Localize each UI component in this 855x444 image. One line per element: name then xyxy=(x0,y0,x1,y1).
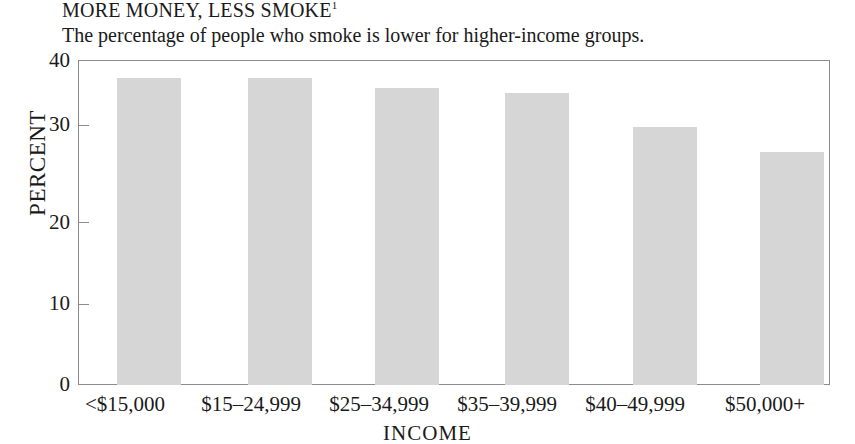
bar-4 xyxy=(633,127,697,385)
x-tick-label-4: $40–49,999 xyxy=(574,392,696,417)
bar-1 xyxy=(248,78,312,385)
bar-3 xyxy=(505,93,569,385)
x-tick-label-1: $15–24,999 xyxy=(190,392,312,417)
bar-2 xyxy=(375,88,439,385)
y-tick-label-30: 30 xyxy=(22,114,70,135)
y-tick-label-0: 0 xyxy=(22,374,70,395)
chart-title-footnote-marker: 1 xyxy=(332,0,338,11)
chart-subtitle: The percentage of people who smoke is lo… xyxy=(62,24,644,47)
bars-layer xyxy=(78,60,830,385)
y-tick-label-20: 20 xyxy=(22,212,70,233)
bar-0 xyxy=(117,78,181,385)
x-tick-label-0: <$15,000 xyxy=(70,392,180,417)
x-tick-label-3: $35–39,999 xyxy=(446,392,568,417)
x-axis-title: INCOME xyxy=(0,421,855,444)
x-tick-label-2: $25–34,999 xyxy=(318,392,440,417)
y-tick-label-10: 10 xyxy=(22,293,70,314)
bar-5 xyxy=(760,152,824,385)
x-tick-label-5: $50,000+ xyxy=(704,392,826,417)
y-axis-title: PERCENT xyxy=(25,63,51,263)
y-axis: PERCENT 40 30 20 10 0 xyxy=(10,0,70,439)
chart-title-text: MORE MONEY, LESS SMOKE xyxy=(62,0,332,21)
chart-title: MORE MONEY, LESS SMOKE1 xyxy=(62,0,337,22)
y-tick-label-40: 40 xyxy=(22,50,70,71)
